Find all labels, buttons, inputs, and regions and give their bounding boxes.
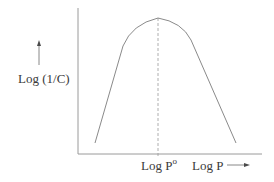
y-axis-label: Log (1/C) — [18, 72, 70, 85]
peak-tick-label: Log Po — [141, 159, 177, 172]
x-axis-label: Log P — [192, 159, 223, 172]
parabola-diagram — [0, 0, 274, 182]
activity-curve — [95, 18, 236, 143]
peak-label-superscript: o — [172, 156, 177, 166]
peak-label-base: Log P — [141, 158, 172, 173]
arrow-right-icon — [244, 163, 250, 167]
arrow-up-icon — [37, 40, 41, 46]
